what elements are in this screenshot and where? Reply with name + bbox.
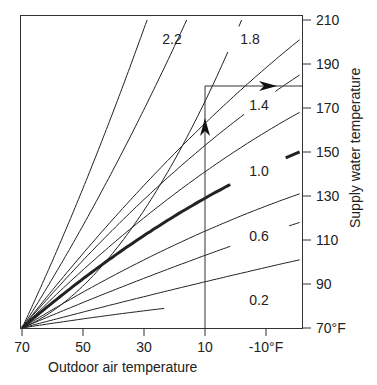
y-tick-label: 150 (316, 144, 340, 160)
curve-label-1-8: 1.8 (240, 31, 260, 47)
curve-label-2-2: 2.2 (162, 31, 182, 47)
curve-0-6 (289, 222, 300, 226)
curve-2-0 (22, 20, 187, 328)
x-tick-label: 10 (197, 339, 213, 355)
curve-1-0 (286, 152, 300, 158)
curve-labels: 2.21.81.41.00.60.2 (162, 31, 269, 308)
x-tick-label: 30 (136, 339, 152, 355)
curve-label-1-4: 1.4 (249, 97, 269, 113)
y-tick-label: 90 (316, 276, 332, 292)
y-axis-ticks: 70°F90110130150170190210 (302, 12, 346, 336)
curve-label-0-2: 0.2 (249, 292, 269, 308)
curve-1-0 (22, 185, 230, 329)
y-tick-label: 210 (316, 12, 340, 28)
curve-1-8 (22, 52, 228, 328)
curve-label-1-0: 1.0 (249, 163, 269, 179)
x-axis-ticks: 70503010-10°F (14, 328, 283, 355)
y-tick-label: 70°F (316, 320, 346, 336)
x-axis-title: Outdoor air temperature (48, 359, 198, 375)
y-tick-label: 130 (316, 188, 340, 204)
curve-1-4 (275, 75, 299, 92)
x-tick-label: -10°F (249, 339, 283, 355)
y-axis-title: Supply water temperature (347, 67, 363, 228)
curve-2-2 (22, 20, 147, 328)
guide-lines (200, 81, 302, 328)
curve-label-0-6: 0.6 (249, 228, 269, 244)
heating-curve-chart: 70503010-10°F 70°F90110130150170190210 2… (0, 0, 377, 385)
x-tick-label: 50 (75, 339, 91, 355)
x-tick-label: 70 (14, 339, 30, 355)
curve-1-8 (239, 20, 242, 27)
y-tick-label: 190 (316, 56, 340, 72)
y-tick-label: 170 (316, 100, 340, 116)
y-tick-label: 110 (316, 232, 339, 248)
